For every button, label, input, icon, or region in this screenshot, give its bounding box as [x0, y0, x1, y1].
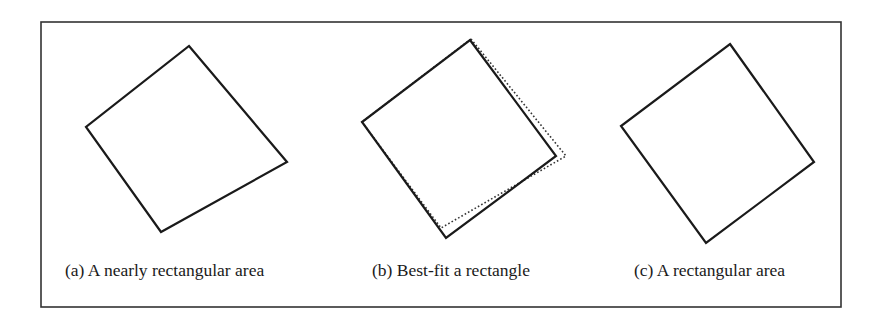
- nearly-rectangular-area-outline: [86, 46, 287, 232]
- caption-b: (b) Best-fit a rectangle: [372, 260, 530, 280]
- original-area-outline: [362, 40, 556, 238]
- caption-c: (c) A rectangular area: [634, 260, 785, 280]
- panel-c: (c) A rectangular area: [621, 44, 814, 280]
- panel-b: (b) Best-fit a rectangle: [362, 39, 566, 280]
- panel-a: (a) A nearly rectangular area: [65, 46, 287, 280]
- figure: (a) A nearly rectangular area (b) Best-f…: [0, 0, 882, 322]
- caption-a: (a) A nearly rectangular area: [65, 260, 264, 280]
- best-fit-rectangle-outline: [362, 39, 566, 228]
- rectangular-area-outline: [621, 44, 814, 243]
